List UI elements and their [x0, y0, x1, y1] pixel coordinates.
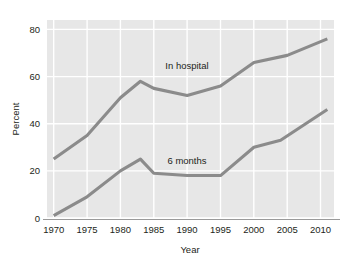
series-annotation-6-months: 6 months [167, 155, 206, 166]
x-tick-label-2000: 2000 [243, 224, 264, 235]
y-tick-label-20: 20 [29, 165, 40, 176]
x-tick-label-2005: 2005 [277, 224, 298, 235]
y-tick-label-0: 0 [35, 213, 40, 224]
y-tick-label-60: 60 [29, 71, 40, 82]
x-axis-title: Year [180, 244, 199, 255]
x-tick-label-1970: 1970 [43, 224, 64, 235]
plot-area-panel [47, 20, 334, 218]
x-tick-label-1985: 1985 [143, 224, 164, 235]
x-tick-label-1990: 1990 [177, 224, 198, 235]
x-tick-label-2010: 2010 [310, 224, 331, 235]
x-tick-label-1995: 1995 [210, 224, 231, 235]
y-tick-label-80: 80 [29, 24, 40, 35]
y-axis-title: Percent [10, 102, 21, 135]
x-tick-label-1980: 1980 [110, 224, 131, 235]
series-annotation-in-hospital: In hospital [165, 60, 208, 71]
x-tick-labels: 1970 1975 1980 1985 1990 1995 2000 2005 … [43, 224, 331, 235]
x-tick-label-1975: 1975 [77, 224, 98, 235]
y-tick-label-40: 40 [29, 118, 40, 129]
line-chart: 0 20 40 60 80 1970 1975 1980 1985 1990 1… [0, 0, 349, 273]
